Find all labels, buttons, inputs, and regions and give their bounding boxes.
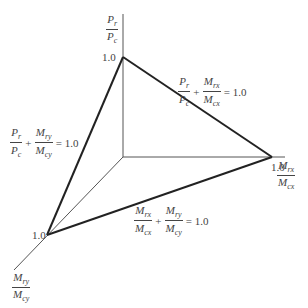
mcy-label: Mcy — [12, 288, 30, 303]
pr-label: Pr — [106, 14, 118, 30]
equation-p-mx: PrPc + MrxMcx = 1.0 — [178, 75, 247, 108]
mry-label: Mry — [12, 272, 30, 288]
diagonal-tick-label: 1.0 — [32, 230, 46, 241]
pc-label: Pc — [106, 30, 118, 45]
mrx-label: Mrx — [277, 160, 295, 176]
vertical-tick-label: 1.0 — [102, 52, 116, 63]
equation-mx-my: MrxMcx + MryMcy = 1.0 — [134, 204, 209, 237]
mcx-label: Mcx — [277, 176, 295, 191]
equation-p-my: PrPc + MryMcy = 1.0 — [10, 126, 79, 159]
diagonal-axis-label: MryMcy — [12, 272, 30, 303]
vertical-axis-label: PrPc — [106, 14, 118, 45]
horizontal-axis-label: MrxMcx — [275, 160, 295, 191]
